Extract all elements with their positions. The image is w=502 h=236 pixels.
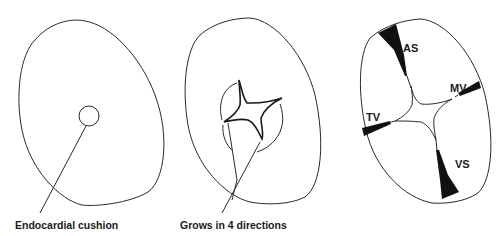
leader-line-1	[40, 126, 86, 213]
heart-outline-2	[185, 18, 321, 204]
central-star-shape	[395, 86, 452, 140]
cushion-star-shape	[224, 80, 282, 139]
label-mv: MV	[450, 82, 467, 94]
panel-grows-4-directions: Grows in 4 directions	[180, 18, 321, 231]
mv-septum-line	[455, 95, 458, 97]
heart-outline-1	[19, 20, 164, 205]
tv-septum-wedge	[362, 121, 391, 136]
caption-endocardial-cushion: Endocardial cushion	[15, 219, 118, 231]
growth-arc-right	[257, 104, 283, 152]
label-vs: VS	[455, 158, 470, 170]
endocardial-cushion-circle	[79, 106, 99, 126]
as-septum-line	[407, 76, 411, 88]
label-as: AS	[403, 42, 418, 54]
heart-development-diagram: Endocardial cushion Grows in 4 direction…	[0, 0, 502, 236]
label-tv: TV	[366, 111, 381, 123]
panel-endocardial-cushion: Endocardial cushion	[15, 20, 164, 231]
panel-final-structure: AS MV TV VS	[360, 19, 490, 203]
tv-septum-line	[391, 121, 395, 122]
caption-grows-4-directions: Grows in 4 directions	[180, 219, 287, 231]
leader-line-2a	[228, 123, 237, 180]
vs-septum-line	[436, 140, 437, 150]
